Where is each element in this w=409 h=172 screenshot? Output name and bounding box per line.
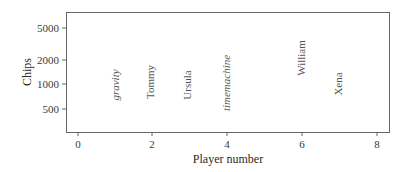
point-label-ursula: Ursula (181, 70, 193, 99)
point-label-gravity: gravity (109, 69, 121, 100)
point-label-tommy: Tommy (144, 64, 156, 99)
x-tick-label: 6 (299, 138, 305, 150)
x-tick-label: 2 (149, 138, 155, 150)
point-label-xena: Xena (332, 72, 344, 95)
x-tick-label: 0 (75, 138, 81, 150)
data-points: gravity Tommy Ursula timemachine William… (109, 40, 344, 111)
point-label-timemachine: timemachine (220, 55, 232, 111)
y-tick-label: 5000 (37, 22, 60, 34)
chart-canvas: 5000 2000 1000 500 Chips 0 2 4 6 8 Playe… (0, 0, 409, 172)
y-axis: 5000 2000 1000 500 Chips (20, 22, 66, 115)
x-tick-label: 8 (374, 138, 380, 150)
y-tick-label: 1000 (37, 78, 60, 90)
y-tick-label: 2000 (37, 54, 60, 66)
x-axis-title: Player number (193, 152, 263, 166)
point-label-william: William (295, 40, 307, 76)
y-tick-label: 500 (43, 103, 60, 115)
y-axis-title: Chips (20, 58, 34, 86)
x-tick-label: 4 (224, 138, 230, 150)
x-axis: 0 2 4 6 8 Player number (75, 132, 380, 166)
